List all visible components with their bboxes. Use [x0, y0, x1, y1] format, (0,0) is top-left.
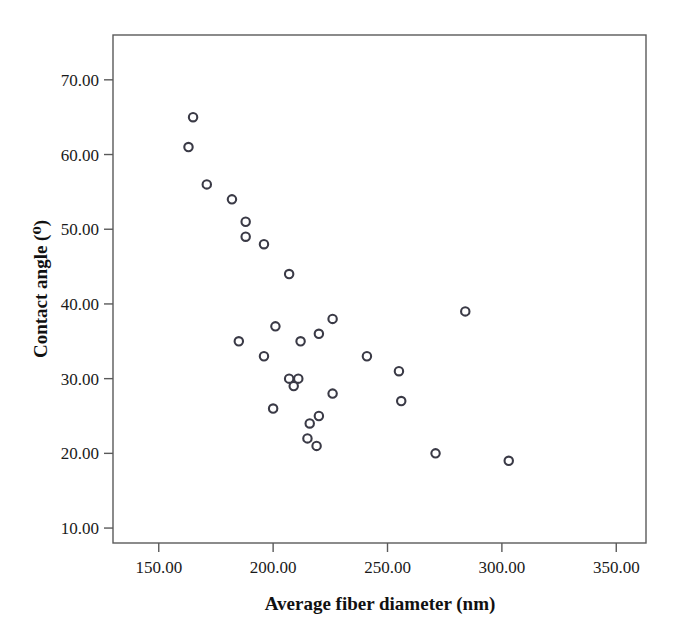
data-point: [260, 352, 268, 360]
y-tick-label: 70.00: [61, 71, 99, 90]
y-tick-label: 30.00: [61, 370, 99, 389]
data-point: [296, 337, 304, 345]
data-point: [395, 367, 403, 375]
data-point: [235, 337, 243, 345]
x-tick-label: 200.00: [250, 558, 297, 577]
chart-background: [0, 0, 681, 638]
y-tick-label: 40.00: [61, 295, 99, 314]
data-point: [461, 307, 469, 315]
data-point: [241, 233, 249, 241]
data-point: [285, 270, 293, 278]
data-point: [290, 382, 298, 390]
scatter-chart: 150.00200.00250.00300.00350.00 10.0020.0…: [0, 0, 681, 638]
data-point: [260, 240, 268, 248]
x-tick-label: 300.00: [479, 558, 526, 577]
y-tick-label: 50.00: [61, 220, 99, 239]
x-tick-label: 250.00: [364, 558, 411, 577]
data-point: [271, 322, 279, 330]
data-point: [363, 352, 371, 360]
data-point: [203, 180, 211, 188]
y-tick-label: 60.00: [61, 146, 99, 165]
plot-canvas: 150.00200.00250.00300.00350.00 10.0020.0…: [0, 0, 681, 638]
data-point: [303, 434, 311, 442]
data-point: [315, 330, 323, 338]
data-point: [269, 404, 277, 412]
data-point: [328, 315, 336, 323]
data-point: [189, 113, 197, 121]
data-point: [328, 389, 336, 397]
data-point: [228, 195, 236, 203]
data-point: [241, 218, 249, 226]
y-tick-label: 20.00: [61, 444, 99, 463]
data-point: [312, 442, 320, 450]
data-point: [431, 449, 439, 457]
data-point: [306, 419, 314, 427]
data-point: [397, 397, 405, 405]
data-point: [315, 412, 323, 420]
x-axis-label: Average fiber diameter (nm): [265, 593, 496, 615]
data-point: [505, 457, 513, 465]
x-tick-label: 150.00: [135, 558, 182, 577]
x-tick-label: 350.00: [593, 558, 640, 577]
y-axis-label: Contact angle (⁰): [30, 220, 52, 358]
y-tick-label: 10.00: [61, 519, 99, 538]
data-point: [184, 143, 192, 151]
